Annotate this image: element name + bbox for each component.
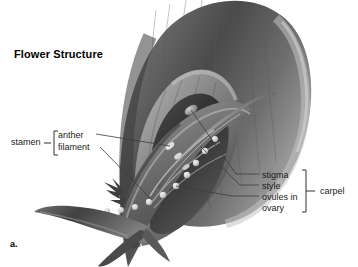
ovule: [184, 172, 191, 179]
stamen-bracket: [44, 131, 58, 155]
ovule: [132, 204, 138, 210]
carpel-bracket: [302, 170, 315, 212]
ovule: [193, 160, 199, 166]
ovule: [160, 192, 167, 199]
flower-illustration: [0, 0, 358, 267]
ovule: [118, 207, 124, 213]
flower-structure-figure: Flower Structure stamen anther filament …: [0, 0, 358, 267]
